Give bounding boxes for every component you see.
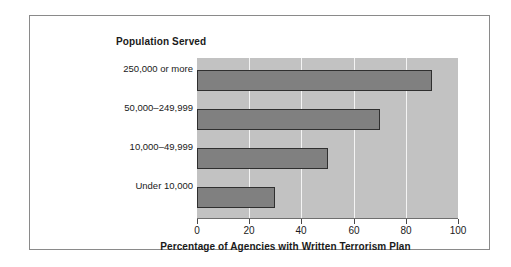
x-axis-tick [301,219,302,224]
x-axis-tick [197,219,198,224]
figure-container: Population Served 250,000 or more 50,000… [0,0,511,267]
x-axis-tick [249,219,250,224]
bar [197,148,328,169]
x-axis-tick-label: 100 [438,225,478,236]
x-axis-tick-label: 20 [229,225,269,236]
chart-title: Population Served [116,36,206,47]
bar [197,187,275,208]
y-axis-category-labels: 250,000 or more 50,000–249,999 10,000–49… [90,58,193,218]
figure-frame: Population Served 250,000 or more 50,000… [29,15,490,250]
y-axis-tick-label: 250,000 or more [90,63,193,74]
x-axis-tick-label: 0 [177,225,217,236]
x-axis-tick [406,219,407,224]
x-axis-title: Percentage of Agencies with Written Terr… [30,241,511,252]
y-axis-tick-label: 10,000–49,999 [90,141,193,152]
bar [197,70,432,91]
x-axis-tick [354,219,355,224]
y-axis-tick-label: 50,000–249,999 [90,102,193,113]
x-axis-tick-label: 60 [334,225,374,236]
x-axis-tick [458,219,459,224]
y-axis-tick-label: Under 10,000 [90,180,193,191]
x-axis-tick-label: 40 [281,225,321,236]
x-axis-line [197,218,458,219]
plot-area [197,58,458,218]
bar [197,109,380,130]
x-axis-tick-label: 80 [386,225,426,236]
